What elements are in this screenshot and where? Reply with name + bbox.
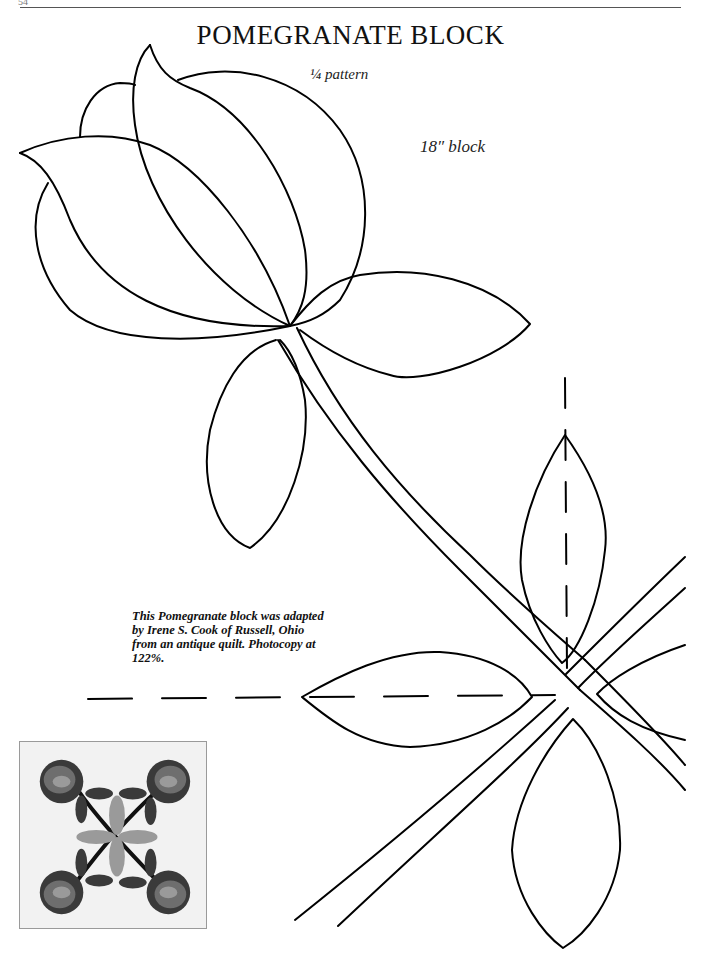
center-leaf-bottom: [512, 719, 620, 948]
center-leaf-top: [521, 435, 606, 663]
page-title: POMEGRANATE BLOCK: [0, 20, 701, 51]
leaf-upper-right: [290, 272, 530, 377]
main-stem: [278, 328, 685, 790]
center-leaf-left: [302, 652, 532, 747]
fold-line-vertical: [565, 378, 567, 672]
cross-stem: [295, 557, 685, 926]
pomegranate-outline: [20, 45, 365, 339]
caption: This Pomegranate block was adapted by Ir…: [132, 609, 332, 665]
leaf-lower-left: [207, 340, 306, 548]
finished-block-photo: [19, 741, 207, 929]
scale-note: ¼ pattern: [310, 66, 368, 83]
leaf-right-edge: [597, 645, 685, 740]
fold-line-horizontal: [88, 695, 555, 699]
quilt-block-illustration: [20, 742, 206, 928]
block-size-label: 18″ block: [420, 137, 485, 157]
